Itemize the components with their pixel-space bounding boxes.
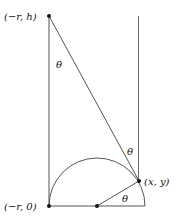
geometry-diagram: (−r, h) (−r, 0) (x, y) θ θ θ [0, 0, 178, 218]
bottom-left-point-dot [47, 204, 51, 208]
radius-line [97, 181, 139, 206]
angle-center-label: θ [122, 193, 128, 204]
diagonal-line [49, 16, 139, 181]
top-point-label: (−r, h) [4, 11, 37, 22]
angle-top-label: θ [56, 59, 62, 70]
angle-right-label: θ [127, 146, 133, 157]
top-point-dot [47, 14, 51, 18]
center-point-dot [95, 204, 99, 208]
arc-point-label: (x, y) [144, 176, 170, 187]
bottom-left-point-label: (−r, 0) [4, 201, 37, 212]
arc-point-dot [137, 179, 141, 183]
